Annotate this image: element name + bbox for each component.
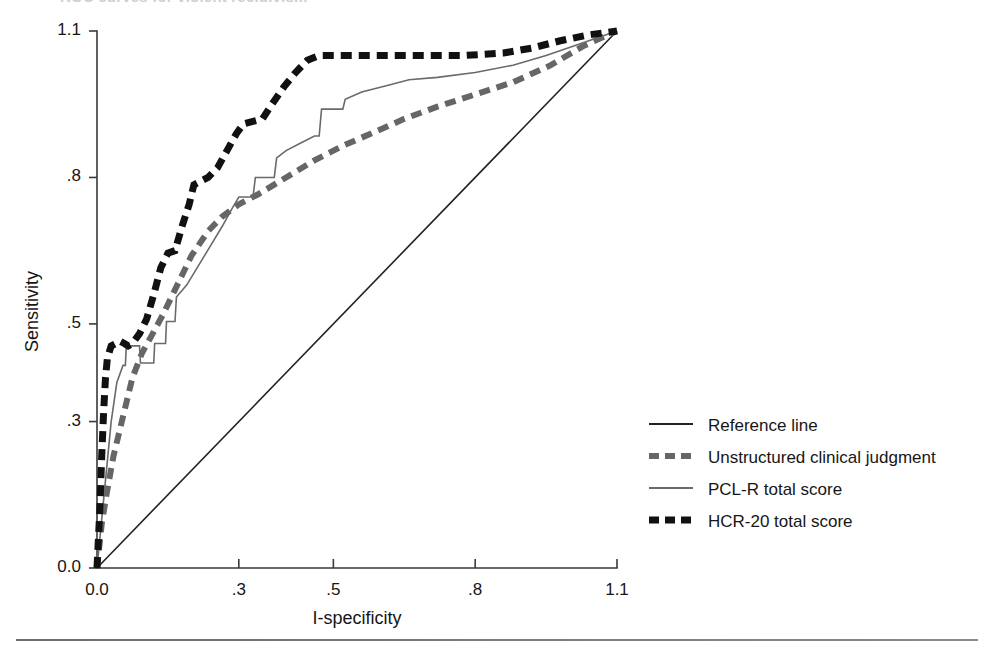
roc-plot-canvas xyxy=(0,0,660,620)
figure-root: ROC curves for violent recidivism 0.0.3.… xyxy=(0,0,991,668)
legend-swatch-line-icon xyxy=(648,451,694,465)
chart-legend: Reference lineUnstructured clinical judg… xyxy=(648,410,988,538)
y-tick-label-.3: .3 xyxy=(0,411,81,431)
legend-item-unstructured-clinical-judgment: Unstructured clinical judgment xyxy=(648,442,988,474)
legend-swatch-line-icon xyxy=(648,483,694,497)
legend-label: Reference line xyxy=(708,416,818,436)
x-tick-label-.8: .8 xyxy=(435,580,515,600)
x-tick-label-0.0: 0.0 xyxy=(57,580,137,600)
legend-item-pcl-r-total-score: PCL-R total score xyxy=(648,474,988,506)
series-group xyxy=(97,31,617,568)
legend-label: HCR-20 total score xyxy=(708,512,853,532)
x-tick-label-.5: .5 xyxy=(293,580,373,600)
y-axis-title: Sensitivity xyxy=(22,270,43,351)
y-tick-label-.8: .8 xyxy=(0,166,81,186)
x-tick-label-1.1: 1.1 xyxy=(577,580,657,600)
legend-item-hcr-20-total-score: HCR-20 total score xyxy=(648,506,988,538)
x-tick-label-.3: .3 xyxy=(199,580,279,600)
y-tick-label-1.1: 1.1 xyxy=(0,20,81,40)
series-reference-line xyxy=(97,31,617,568)
legend-label: Unstructured clinical judgment xyxy=(708,448,936,468)
y-tick-label-0.0: 0.0 xyxy=(0,557,81,577)
roc-chart: 0.0.3.5.81.10.0.3.5.81.1 I-specificity S… xyxy=(0,0,660,620)
legend-swatch-line-icon xyxy=(648,515,694,529)
x-axis-title: I-specificity xyxy=(97,608,617,629)
legend-swatch-line-icon xyxy=(648,419,694,433)
legend-item-reference-line: Reference line xyxy=(648,410,988,442)
footer-divider xyxy=(16,639,978,641)
legend-label: PCL-R total score xyxy=(708,480,842,500)
